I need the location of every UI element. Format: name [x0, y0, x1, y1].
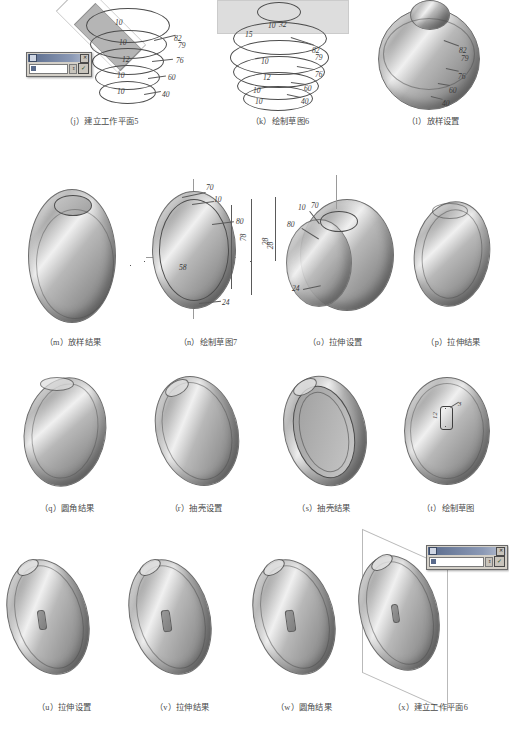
confirm-button[interactable]: ✓ — [494, 556, 505, 567]
dimension-inner-2: 80 — [236, 217, 244, 226]
dimension-inner-2: 80 — [287, 220, 295, 229]
figure-t: 12 3 （t）绘制草图 — [388, 363, 509, 518]
workplane-dialog[interactable]: ✕ ⇕ ✓ — [426, 545, 508, 570]
figure-x-artwork: ✕ ⇕ ✓ — [352, 540, 509, 717]
dimension-outer-4: 40 — [301, 97, 309, 106]
sketch-point-top — [445, 408, 446, 409]
figure-x-caption: （x）建立工作平面6 — [352, 700, 509, 712]
dimension-inner-4: 10 — [117, 87, 125, 96]
figure-r-artwork — [132, 363, 260, 518]
figure-r-caption: （r）抽壳设置 — [132, 501, 260, 513]
dimension-outer-4: 40 — [442, 99, 450, 108]
confirm-button[interactable]: ✓ — [78, 63, 89, 74]
figure-s-artwork — [260, 363, 388, 518]
sketch-inner-profile — [159, 199, 229, 301]
dialog-value-input[interactable] — [429, 557, 484, 567]
dimension-inner-6: 10 — [255, 97, 263, 106]
dimension-inner-4: 12 — [263, 73, 271, 82]
dialog-app-icon — [429, 547, 437, 555]
dimension-inner-4: 58 — [179, 263, 187, 272]
silhouette-edge — [36, 209, 114, 319]
figure-k-caption: （k）绘制草图6 — [205, 114, 355, 126]
extrude-profile-edge — [320, 211, 358, 232]
dimension-outer-4: 40 — [162, 90, 170, 99]
spinner-icon[interactable]: ⇕ — [485, 557, 493, 567]
dimension-inner-5: 10 — [253, 86, 261, 95]
figure-t-artwork: 12 3 — [388, 363, 509, 518]
figure-w-artwork — [240, 552, 368, 717]
figure-n: 70 10 80 78 58 24 28 （n）绘制草图7 — [144, 175, 272, 350]
dimension-inner-0: 10 — [268, 21, 276, 30]
figure-r: （r）抽壳设置 — [132, 363, 260, 518]
figure-t-caption: （t）绘制草图 — [388, 501, 509, 513]
figure-q: （q）圆角结果 — [2, 363, 132, 518]
figure-v-caption: （v）拉伸结果 — [118, 700, 246, 712]
dialog-body: ⇕ ✓ — [428, 555, 506, 568]
dimension-inner-2: 15 — [245, 30, 253, 39]
dimension-extension-left — [275, 197, 276, 261]
close-icon[interactable]: ✕ — [496, 547, 505, 556]
dimension-inner-1: 70 — [311, 201, 319, 210]
figure-u: （u）拉伸设置 — [0, 552, 128, 717]
figure-x: ✕ ⇕ ✓ （x）建立工作平面6 — [352, 540, 509, 717]
reference-point-left — [144, 261, 145, 262]
dialog-titlebar[interactable]: ✕ — [428, 547, 506, 555]
dimension-inner-0: 12 — [431, 412, 438, 419]
workplane-dialog[interactable]: ✕ ⇕ ✓ — [26, 52, 92, 77]
figure-w: （w）圆角结果 — [240, 552, 368, 717]
dimension-extension-right — [251, 199, 252, 295]
dimension-inner-0: 70 — [206, 183, 214, 192]
figure-s: （s）抽壳结果 — [260, 363, 388, 518]
figure-v-artwork — [118, 552, 246, 717]
figure-p: （p）拉伸结果 — [398, 175, 509, 350]
figure-w-caption: （w）圆角结果 — [240, 700, 368, 712]
dimension-inner-1: 10 — [214, 195, 222, 204]
figure-m-caption: （m）放样结果 — [2, 335, 144, 347]
figure-l-caption: （l）放样设置 — [358, 114, 509, 126]
vertical-centerline — [336, 175, 337, 209]
dimension-inner-3: 78 — [239, 234, 248, 242]
dimension-extension-inner — [231, 205, 232, 289]
dimension-inner-0: 10 — [298, 203, 306, 212]
dimension-inner-3: 24 — [292, 284, 300, 293]
figure-q-artwork — [2, 363, 132, 518]
reference-point — [130, 265, 131, 266]
figure-l: 82 79 76 60 40 （l）放样设置 — [358, 0, 509, 135]
sketch-point-bottom — [445, 426, 446, 427]
tutorial-page: 10 10 12 10 10 82 79 76 60 40 ✕ — [0, 0, 509, 741]
figure-u-artwork — [0, 552, 128, 717]
spinner-icon[interactable]: ⇕ — [69, 64, 77, 74]
dimension-inner-3: 10 — [117, 71, 125, 80]
figure-v: （v）拉伸结果 — [118, 552, 246, 717]
dimension-inner-0: 10 — [115, 18, 123, 27]
dialog-value-input[interactable] — [29, 64, 68, 74]
dimension-outer-2: 76 — [176, 56, 184, 65]
top-chamfer-band — [40, 377, 74, 391]
dialog-app-icon — [29, 54, 37, 62]
figure-o-artwork: 10 70 80 24 28 — [270, 175, 400, 350]
extrude-result-top-chamfer — [432, 203, 468, 219]
figure-k: 10 32 15 10 12 10 10 82 79 76 60 40 （k）绘… — [205, 0, 355, 135]
figure-j: 10 10 12 10 10 82 79 76 60 40 ✕ — [2, 0, 202, 135]
dimension-outer-1: 79 — [315, 53, 323, 62]
slot-sketch-outline — [440, 406, 453, 430]
dialog-body: ⇕ ✓ — [28, 62, 90, 75]
reference-point-right — [250, 261, 251, 262]
dialog-titlebar[interactable]: ✕ — [28, 54, 90, 62]
figure-p-artwork — [398, 175, 509, 350]
close-icon[interactable]: ✕ — [80, 54, 89, 63]
figure-n-caption: （n）绘制草图7 — [144, 335, 272, 347]
dimension-outer-2: 76 — [315, 70, 323, 79]
dimension-outer-1: 79 — [461, 54, 469, 63]
figure-o: 10 70 80 24 28 （o）拉伸设置 — [270, 175, 400, 350]
figure-o-caption: （o）拉伸设置 — [270, 335, 400, 347]
dimension-outer-0: 28 — [266, 242, 275, 250]
dimension-inner-2: 12 — [122, 55, 130, 64]
figure-j-caption: （j）建立工作平面5 — [2, 114, 202, 126]
dimension-inner-3: 10 — [261, 57, 269, 66]
figure-m-artwork — [2, 175, 144, 350]
dimension-outer-1: 79 — [178, 41, 186, 50]
dimension-outer-2: 76 — [458, 72, 466, 81]
extrude-preview-slab — [286, 219, 352, 307]
figure-p-caption: （p）拉伸结果 — [398, 335, 509, 347]
